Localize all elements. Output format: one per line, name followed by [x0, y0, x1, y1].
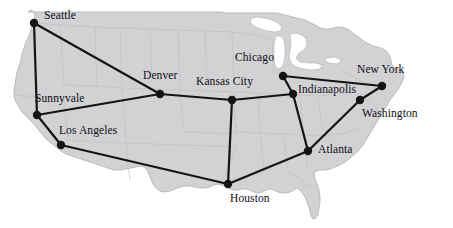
city-label-atlanta: Atlanta	[318, 144, 353, 156]
city-label-indianapolis: Indianapolis	[298, 84, 356, 96]
network-node-seattle[interactable]	[30, 19, 38, 27]
network-node-sunnyvale[interactable]	[33, 111, 41, 119]
lake-michigan	[274, 36, 285, 69]
network-node-atlanta[interactable]	[304, 147, 312, 155]
city-label-washington: Washington	[362, 108, 418, 120]
network-node-indianapolis[interactable]	[289, 90, 297, 98]
network-node-houston[interactable]	[224, 180, 232, 188]
city-label-chicago: Chicago	[235, 52, 274, 64]
city-label-kansas-city: Kansas City	[196, 76, 253, 88]
city-label-houston: Houston	[230, 193, 270, 205]
network-node-washington[interactable]	[356, 96, 364, 104]
network-topology-figure: SeattleSunnyvaleLos AngelesDenverKansas …	[0, 0, 453, 228]
city-label-new-york: New York	[357, 64, 404, 76]
city-label-sunnyvale: Sunnyvale	[35, 93, 84, 105]
network-node-kansas-city[interactable]	[228, 96, 236, 104]
city-label-denver: Denver	[143, 70, 177, 82]
city-label-los-angeles: Los Angeles	[59, 125, 117, 137]
network-node-los-angeles[interactable]	[57, 141, 65, 149]
network-node-new-york[interactable]	[378, 82, 386, 90]
city-label-seattle: Seattle	[44, 10, 76, 22]
network-node-chicago[interactable]	[279, 72, 287, 80]
network-node-denver[interactable]	[156, 90, 164, 98]
